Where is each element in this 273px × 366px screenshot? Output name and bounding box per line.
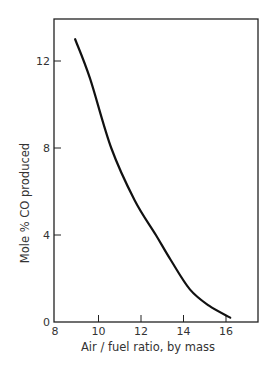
x-tick-label: 8 (52, 325, 59, 338)
x-tick-label: 16 (219, 325, 233, 338)
y-tick-label: 4 (43, 229, 50, 242)
y-axis-ticks: 04812 (36, 55, 61, 329)
x-tick-label: 10 (92, 325, 106, 338)
x-axis-label: Air / fuel ratio, by mass (81, 340, 215, 354)
x-axis-ticks: 810121416 (52, 315, 234, 338)
chart: 810121416 04812 Air / fuel ratio, by mas… (0, 0, 273, 366)
co-curve (75, 39, 230, 317)
x-tick-label: 14 (177, 325, 191, 338)
y-axis-label: Mole % CO produced (18, 143, 32, 263)
y-tick-label: 8 (43, 142, 50, 155)
y-tick-label: 0 (43, 316, 50, 329)
y-tick-label: 12 (36, 55, 50, 68)
x-tick-label: 12 (134, 325, 148, 338)
